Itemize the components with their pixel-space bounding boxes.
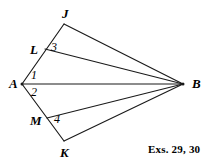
angle-label-1: 1 <box>31 69 37 81</box>
vertex-dot-b <box>182 83 185 86</box>
angle-label-4: 4 <box>54 113 60 125</box>
segment-m-b <box>47 84 183 118</box>
segment-l-b <box>45 49 183 84</box>
point-label-a: A <box>9 77 18 90</box>
segment-a-j <box>22 24 64 84</box>
geometry-figure: A B J L M K 1 2 3 4 Exs. 29, 30 <box>0 0 209 162</box>
vertex-dot-a <box>21 83 24 86</box>
segments-group <box>22 24 183 141</box>
point-label-l: L <box>30 43 38 56</box>
point-label-m: M <box>30 114 42 127</box>
point-label-b: B <box>192 77 201 90</box>
angle-label-3: 3 <box>51 41 57 53</box>
exercise-caption: Exs. 29, 30 <box>148 143 200 155</box>
point-label-j: J <box>62 7 69 20</box>
point-label-k: K <box>60 146 69 159</box>
segment-k-b <box>64 84 183 141</box>
angle-label-2: 2 <box>31 86 37 98</box>
segment-j-b <box>64 24 183 84</box>
